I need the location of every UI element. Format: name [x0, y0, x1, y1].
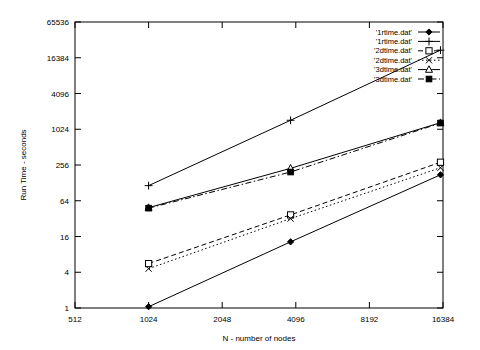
x-tick-label: 1024: [140, 315, 158, 324]
data-point-marker-open-square: [426, 48, 432, 54]
x-tick-label: 2048: [213, 315, 231, 324]
x-tick-label: 512: [68, 315, 82, 324]
x-tick-label: 16384: [432, 315, 455, 324]
data-point-marker-open-square: [437, 159, 443, 165]
chart-container: 141664256102440961638465536 512102420484…: [0, 0, 480, 350]
x-axis-title: N - number of nodes: [223, 334, 296, 343]
data-point-marker-filled-square: [288, 169, 294, 175]
y-tick-label: 16384: [47, 54, 70, 63]
data-point-marker-filled-square: [438, 120, 444, 126]
legend-label-5: '3dtime.dat': [374, 75, 412, 84]
y-axis-title: Run Time - seconds: [19, 129, 28, 200]
y-tick-label: 64: [60, 197, 69, 206]
legend-label-0: '1rtime.dat': [376, 28, 413, 37]
x-tick-label: 8192: [361, 315, 379, 324]
x-tick-label: 4096: [287, 315, 305, 324]
legend-label-3: '2dtime.dat': [374, 56, 412, 65]
legend-item-2: '2dtime.dat': [374, 46, 440, 55]
data-point-marker-filled-square: [146, 205, 152, 211]
y-tick-label: 4096: [51, 90, 69, 99]
legend-label-4: '3dtime.dat': [374, 65, 412, 74]
y-tick-label: 256: [56, 161, 70, 170]
legend-item-5: '3dtime.dat': [374, 75, 440, 84]
y-tick-label: 4: [65, 268, 70, 277]
y-tick-label: 16: [60, 233, 69, 242]
data-point-marker-filled-square: [426, 76, 432, 82]
y-tick-label: 1: [65, 304, 70, 313]
run-time-log-log-chart: 141664256102440961638465536 512102420484…: [0, 0, 480, 350]
y-tick-label: 65536: [47, 18, 70, 27]
data-point-marker-open-square: [146, 260, 152, 266]
legend-label-2: '2dtime.dat': [374, 46, 412, 55]
y-tick-label: 1024: [51, 125, 69, 134]
legend-label-1: '1rtime.dat': [376, 37, 413, 46]
